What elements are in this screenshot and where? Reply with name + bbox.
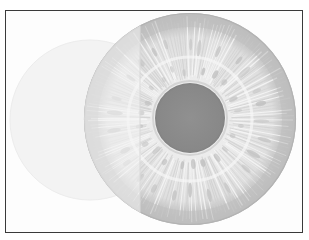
iris-illustration bbox=[0, 0, 309, 240]
pupil bbox=[155, 83, 225, 153]
